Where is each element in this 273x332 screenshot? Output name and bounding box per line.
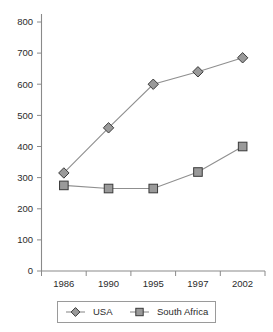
y-tick-label-0: 0: [28, 265, 33, 276]
x-tick-label-2002: 2002: [232, 278, 253, 289]
square-marker-icon: [136, 308, 143, 315]
legend-label-south-africa: South Africa: [157, 306, 209, 317]
y-tick-label-400: 400: [17, 141, 33, 152]
y-tick-label-100: 100: [17, 234, 33, 245]
y-axis-tick-labels: 0 100 200 300 400 500 600 700 800: [17, 16, 33, 276]
chart-canvas: 0 100 200 300 400 500 600 700 800 1986 1…: [0, 0, 273, 332]
data-point-square: [149, 184, 158, 193]
y-tick-label-500: 500: [17, 110, 33, 121]
data-point-square: [104, 184, 113, 193]
y-tick-label-300: 300: [17, 172, 33, 183]
data-point-square: [60, 181, 69, 190]
y-tick-label-600: 600: [17, 79, 33, 90]
data-point-square: [194, 168, 203, 177]
y-tick-label-800: 800: [17, 16, 33, 27]
x-tick-label-1997: 1997: [187, 278, 208, 289]
legend-label-usa: USA: [93, 306, 113, 317]
data-point-square: [238, 142, 247, 151]
line-chart: 0 100 200 300 400 500 600 700 800 1986 1…: [0, 0, 273, 332]
y-tick-label-200: 200: [17, 203, 33, 214]
x-tick-label-1990: 1990: [98, 278, 119, 289]
legend-entry-south-africa[interactable]: South Africa: [130, 306, 209, 317]
x-tick-label-1995: 1995: [143, 278, 164, 289]
x-tick-label-1986: 1986: [53, 278, 74, 289]
y-tick-label-700: 700: [17, 47, 33, 58]
